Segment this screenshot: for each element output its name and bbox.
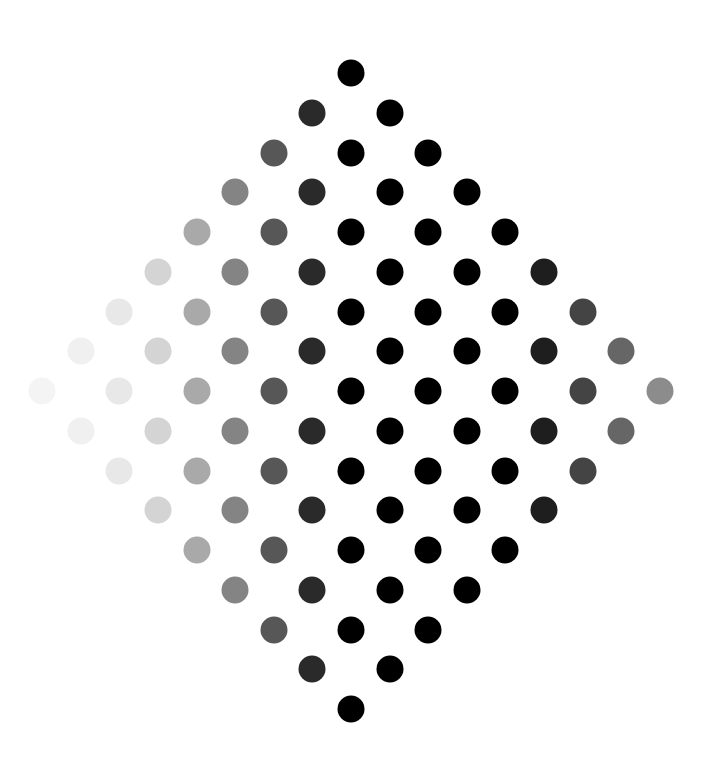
dot [260,457,287,484]
dot [260,219,287,246]
dot [415,537,442,564]
dot-diamond-figure [0,0,718,764]
dot [492,457,519,484]
dot [222,497,249,524]
dot [531,338,558,365]
dot [222,338,249,365]
dot [338,616,365,643]
dot [299,338,326,365]
dot [376,179,403,206]
dot [376,338,403,365]
dot [299,497,326,524]
dot [531,497,558,524]
dot [106,298,133,325]
dot [415,219,442,246]
dot [453,576,480,603]
dot [415,457,442,484]
dot [338,378,365,405]
dot [260,616,287,643]
dot [222,576,249,603]
dot [531,258,558,285]
dot [376,576,403,603]
dot [299,179,326,206]
dot [492,219,519,246]
dot [183,219,210,246]
dot [106,457,133,484]
dot [569,298,596,325]
dot [569,457,596,484]
dot [608,338,635,365]
dot [338,298,365,325]
dot [183,378,210,405]
dot [376,99,403,126]
dot [338,139,365,166]
dot [415,378,442,405]
dot [608,417,635,444]
dot [183,457,210,484]
dot [145,417,172,444]
dot [492,298,519,325]
dot [376,656,403,683]
dot [29,378,56,405]
dot [492,378,519,405]
dot [453,417,480,444]
dot [145,338,172,365]
dot [222,417,249,444]
dot [453,497,480,524]
dot [299,99,326,126]
dot [260,537,287,564]
dot [260,298,287,325]
dot [415,298,442,325]
dot [338,457,365,484]
dot [260,139,287,166]
dot [415,139,442,166]
dot [67,338,94,365]
dot [338,219,365,246]
dot [67,417,94,444]
dot [376,417,403,444]
dot [338,537,365,564]
dot [415,616,442,643]
dot [376,258,403,285]
dot [299,576,326,603]
dot [569,378,596,405]
dot [338,60,365,87]
dot [260,378,287,405]
dot [299,258,326,285]
dot [299,656,326,683]
dot [376,497,403,524]
dot [145,497,172,524]
dot [453,258,480,285]
dot [299,417,326,444]
dot [183,298,210,325]
dot [453,338,480,365]
dot [453,179,480,206]
dot [646,378,673,405]
dot [222,258,249,285]
dot [222,179,249,206]
dot [145,258,172,285]
dot [531,417,558,444]
dot [183,537,210,564]
dot [338,696,365,723]
dot [492,537,519,564]
dot [106,378,133,405]
